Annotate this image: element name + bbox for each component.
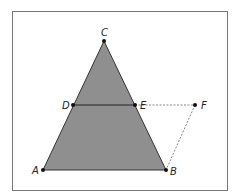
label-a: A [31, 165, 39, 176]
label-b: B [170, 166, 177, 177]
geometry-diagram: A B C D E F [0, 0, 240, 196]
point-d [71, 103, 75, 107]
point-f [193, 103, 197, 107]
point-a [41, 168, 45, 172]
label-e: E [140, 100, 147, 111]
point-e [133, 103, 137, 107]
label-c: C [101, 27, 108, 38]
label-f: F [201, 100, 207, 111]
label-d: D [62, 100, 70, 111]
point-b [164, 168, 168, 172]
point-c [102, 39, 106, 43]
